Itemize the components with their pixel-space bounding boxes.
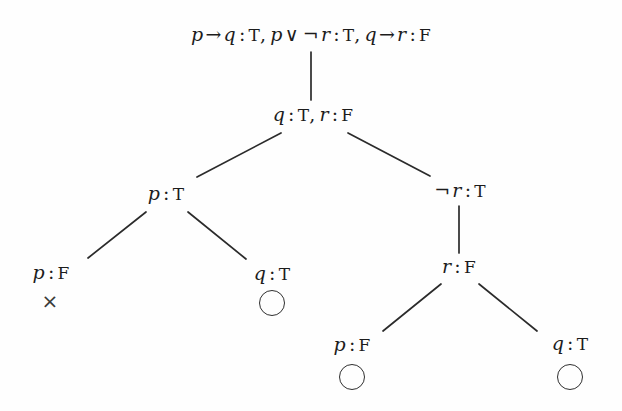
formula-token-val: T [248, 25, 260, 45]
formula-token-var: q [254, 262, 266, 284]
closed-branch-icon: × [42, 291, 59, 311]
semantic-tableau-figure: p→q:T,p∨¬r:T,q→r:Fq:T,r:Fp:T¬r:Tp:Fq:Tr:… [0, 0, 622, 411]
formula-token-val: F [419, 25, 431, 45]
formula-token-val: T [474, 181, 486, 201]
formula-token-val: T [279, 264, 291, 284]
tree-edges-layer [0, 0, 622, 411]
formula-token-var: p [33, 261, 45, 283]
formula-token-val: T [173, 184, 185, 204]
tree-node-left-pT: p:T [148, 184, 185, 203]
tree-node-node-rF: r:F [442, 257, 476, 276]
formula-token-var: r [442, 255, 451, 277]
formula-token-var: p [334, 333, 346, 355]
tree-edge [188, 212, 246, 259]
formula-token-var: r [319, 103, 328, 125]
open-branch-icon [557, 364, 583, 390]
formula-token-val: T [298, 105, 310, 125]
tree-edge [348, 133, 430, 176]
open-branch-icon [259, 290, 285, 316]
formula-token-colon: : [236, 23, 249, 45]
formula-token-op: → [203, 23, 223, 45]
formula-token-var: r [321, 23, 330, 45]
tree-node-root: p→q:T,p∨¬r:T,q→r:F [191, 25, 431, 44]
formula-token-var: q [552, 332, 564, 354]
formula-token-val: F [57, 263, 69, 283]
tree-node-right-notr: ¬r:T [432, 181, 486, 200]
tree-node-leaf-qT-bottom: q:T [552, 334, 589, 353]
formula-token-comma: , [260, 23, 270, 45]
formula-token-colon: : [462, 179, 475, 201]
formula-token-val: T [577, 334, 589, 354]
formula-token-val: F [464, 257, 476, 277]
tree-edge [197, 133, 281, 177]
formula-token-colon: : [330, 23, 343, 45]
formula-token-var: p [270, 23, 282, 45]
formula-token-var: q [365, 23, 377, 45]
formula-token-op: ¬ [301, 23, 321, 45]
formula-token-val: T [343, 25, 355, 45]
formula-token-colon: : [285, 103, 298, 125]
formula-token-val: F [341, 105, 353, 125]
tree-node-leaf-pF-bottom: p:F [334, 335, 371, 354]
formula-token-val: F [358, 335, 370, 355]
formula-token-colon: : [564, 332, 577, 354]
formula-token-var: q [224, 23, 236, 45]
formula-token-var: p [191, 23, 203, 45]
formula-token-op: ¬ [432, 179, 452, 201]
formula-token-var: r [397, 23, 406, 45]
tree-edge [88, 212, 146, 258]
formula-token-colon: : [346, 333, 359, 355]
formula-token-colon: : [451, 255, 464, 277]
tree-node-level2: q:T,r:F [273, 105, 354, 124]
formula-token-colon: : [160, 182, 173, 204]
formula-token-op: ∨ [283, 23, 301, 45]
formula-token-colon: : [329, 103, 342, 125]
tree-node-leaf-pF-left: p:F [33, 263, 70, 282]
formula-token-colon: : [266, 262, 279, 284]
formula-token-comma: , [354, 23, 364, 45]
formula-token-op: → [377, 23, 397, 45]
formula-token-colon: : [45, 261, 58, 283]
tree-edge [383, 284, 441, 331]
tree-node-leaf-qT-mid: q:T [254, 264, 291, 283]
formula-token-colon: : [406, 23, 419, 45]
open-branch-icon [339, 364, 365, 390]
tree-edge [479, 284, 537, 331]
formula-token-var: q [273, 103, 285, 125]
formula-token-comma: , [309, 103, 319, 125]
formula-token-var: p [148, 182, 160, 204]
